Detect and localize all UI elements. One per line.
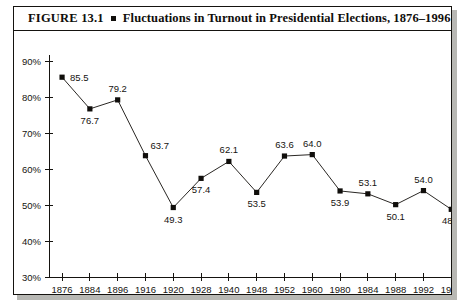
data-point-label: 49.3 (164, 214, 183, 225)
x-axis-tick-label: 1896 (107, 284, 128, 294)
data-point-marker (337, 188, 342, 193)
figure-title-bar: FIGURE 13.1 Fluctuations in Turnout in P… (14, 7, 451, 31)
data-point-marker (310, 152, 315, 157)
y-axis-tick-label: 70% (22, 128, 42, 139)
series-line-turnout (62, 77, 451, 209)
data-point-marker (115, 97, 120, 102)
data-point-label: 54.0 (414, 174, 433, 185)
x-axis-tick-label: 1916 (135, 284, 156, 294)
x-axis-tick-label: 1992 (413, 284, 434, 294)
y-axis-tick-label: 90% (22, 56, 42, 67)
figure-frame: FIGURE 13.1 Fluctuations in Turnout in P… (13, 6, 452, 295)
data-point-label: 50.1 (386, 211, 405, 222)
y-axis-tick-label: 50% (22, 200, 42, 211)
data-point-label: 79.2 (108, 83, 127, 94)
data-point-label: 76.7 (81, 115, 100, 126)
y-axis-tick-label: 40% (22, 236, 42, 247)
chart-plot-area: 30%40%50%60%70%80%90%1876188418961916192… (14, 31, 451, 294)
x-axis-tick-label: 1920 (163, 284, 184, 294)
data-point-marker (365, 191, 370, 196)
data-point-marker (393, 202, 398, 207)
data-point-marker (421, 188, 426, 193)
turnout-line-chart: 30%40%50%60%70%80%90%1876188418961916192… (14, 31, 451, 294)
x-axis-tick-label: 1948 (246, 284, 267, 294)
data-point-label: 48.8 (442, 215, 451, 226)
x-axis-tick-label: 1988 (385, 284, 406, 294)
data-point-marker (59, 75, 64, 80)
x-axis-tick-label: 1928 (190, 284, 211, 294)
data-point-label: 53.1 (359, 177, 378, 188)
data-point-label: 85.5 (70, 72, 89, 83)
data-point-label: 64.0 (303, 138, 322, 149)
data-point-label: 53.9 (331, 197, 350, 208)
data-point-label: 63.6 (275, 139, 294, 150)
x-axis-tick-label: 1940 (218, 284, 239, 294)
figure-number: FIGURE 13.1 (28, 11, 104, 26)
data-point-label: 63.7 (150, 140, 169, 151)
data-point-label: 62.1 (220, 144, 239, 155)
x-axis-tick-label: 1996 (441, 284, 451, 294)
data-point-marker (226, 159, 231, 164)
data-point-marker (87, 106, 92, 111)
data-point-marker (198, 176, 203, 181)
data-point-marker (449, 207, 451, 212)
figure-caption: Fluctuations in Turnout in Presidential … (123, 11, 451, 26)
y-axis-tick-label: 30% (22, 272, 42, 283)
data-point-label: 53.5 (247, 198, 266, 209)
x-axis-tick-label: 1984 (357, 284, 378, 294)
x-axis-tick-label: 1884 (79, 284, 100, 294)
x-axis-tick-label: 1876 (51, 284, 72, 294)
data-point-marker (282, 153, 287, 158)
data-point-label: 57.4 (192, 184, 211, 195)
y-axis-tick-label: 80% (22, 92, 42, 103)
x-axis-tick-label: 1952 (274, 284, 295, 294)
data-point-marker (171, 205, 176, 210)
x-axis-tick-label: 1980 (329, 284, 350, 294)
data-point-marker (143, 153, 148, 158)
x-axis-tick-label: 1960 (302, 284, 323, 294)
figure-root: FIGURE 13.1 Fluctuations in Turnout in P… (0, 0, 461, 305)
y-axis-tick-label: 60% (22, 164, 42, 175)
square-bullet-icon (111, 16, 116, 21)
data-point-marker (254, 190, 259, 195)
